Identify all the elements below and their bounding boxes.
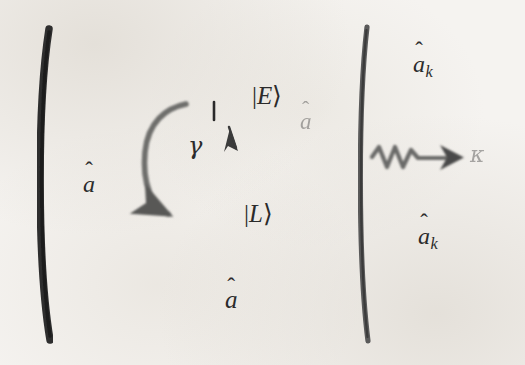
input-a-label: ˆa (83, 172, 95, 196)
kappa-wavy-arrow (372, 145, 464, 170)
hat-mark: ˆ (415, 40, 423, 63)
ket-bar-right: ⟩ (263, 200, 273, 227)
a-hat-glyph: ˆa (418, 224, 430, 248)
a-k-top-label: ˆa k (413, 52, 433, 80)
gamma-decay-arrow (144, 104, 186, 214)
hat-mark: ˆ (420, 212, 428, 235)
level-label-lower: |L⟩ (244, 201, 273, 226)
ket-bar-right: ⟩ (272, 82, 282, 109)
a-hat-glyph: ˆa (83, 172, 95, 196)
a-hat-glyph: ˆa (225, 287, 238, 312)
hat-mark: ˆ (227, 275, 235, 299)
gamma-label: γ (188, 134, 202, 158)
excited-down-arrow (214, 102, 238, 152)
hat-mark: ˆ (85, 160, 93, 183)
cavity-span-a-label: ˆa (225, 287, 238, 312)
center-a-label: ˆa (300, 110, 312, 133)
right-cavity-mirror (360, 27, 368, 341)
a-k-bottom-label: ˆa k (418, 224, 438, 252)
ket-letter-excited: E (257, 82, 272, 109)
a-hat-glyph: ˆa (413, 52, 425, 76)
k-subscript: k (431, 234, 438, 253)
k-subscript: k (426, 62, 433, 81)
figure-canvas: |E⟩ |L⟩ γ κ ˆa ˆa ˆa k ˆa k ˆa (0, 0, 525, 365)
diagram-artwork (0, 0, 525, 365)
kappa-label: κ (470, 144, 484, 166)
level-label-excited: |E⟩ (252, 83, 282, 108)
a-hat-glyph: ˆa (300, 110, 312, 133)
ket-letter-lower: L (249, 200, 263, 227)
hat-mark: ˆ (302, 99, 309, 121)
left-cavity-mirror (40, 29, 50, 340)
